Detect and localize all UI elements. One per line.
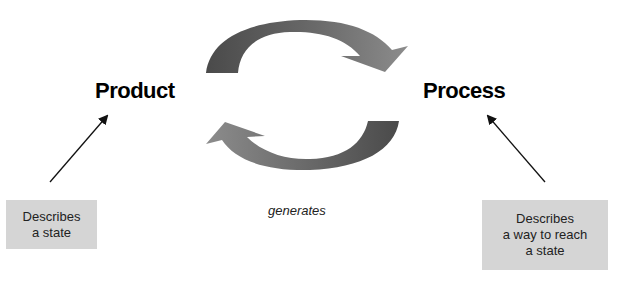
- note-process-line-3: a state: [482, 243, 608, 259]
- pointer-arrow-product-icon: [50, 116, 107, 182]
- pointer-arrow-process-icon: [488, 116, 545, 182]
- note-process-line-1: Describes: [482, 211, 608, 227]
- note-product-line-1: Describes: [6, 209, 97, 225]
- cycle-arrow-bottom-icon: [206, 121, 399, 170]
- note-process-line-2: a way to reach: [482, 227, 608, 243]
- node-process: Process: [423, 79, 505, 103]
- note-process: Describes a way to reach a state: [482, 200, 608, 270]
- node-product: Product: [95, 79, 175, 103]
- edge-label-generates: generates: [268, 203, 326, 218]
- cycle-arrow-top-icon: [206, 20, 408, 73]
- note-product-line-2: a state: [6, 225, 97, 241]
- note-product: Describes a state: [6, 200, 97, 249]
